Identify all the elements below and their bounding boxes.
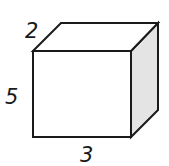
- prism-svg: 2 5 3: [0, 0, 169, 166]
- width-label: 3: [80, 143, 93, 166]
- depth-label: 2: [25, 19, 38, 43]
- rectangular-prism-diagram: 2 5 3: [0, 0, 169, 166]
- front-face: [33, 51, 131, 137]
- height-label: 5: [5, 85, 18, 109]
